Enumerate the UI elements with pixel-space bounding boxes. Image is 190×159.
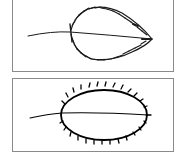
serrate-leaf-icon xyxy=(28,7,152,60)
leaf-diagram xyxy=(0,0,190,159)
toothed-leaf-icon xyxy=(30,82,151,144)
